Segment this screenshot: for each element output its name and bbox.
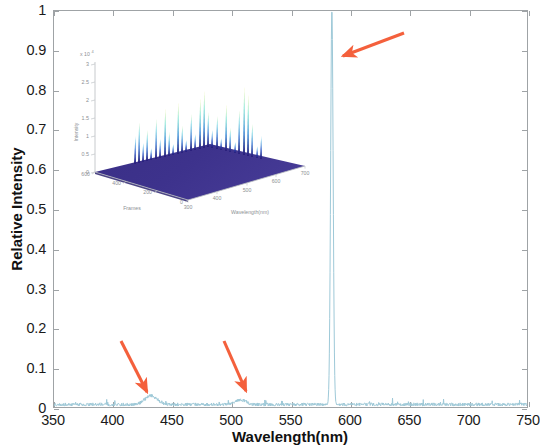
y-tick-label-0.4: 0.4 [0, 241, 46, 257]
x-tick-label-400: 400 [101, 412, 125, 428]
svg-text:400: 400 [213, 195, 222, 201]
x-tick-label-550: 550 [279, 412, 303, 428]
y-tick-label-0.5: 0.5 [0, 201, 46, 217]
y-tick-label-0: 0 [0, 400, 46, 416]
y-tick-label-0.8: 0.8 [0, 82, 46, 98]
x-tick-label-650: 650 [397, 412, 421, 428]
inset-z-exponent: x 10 4 [80, 49, 95, 57]
svg-text:1: 1 [86, 133, 89, 139]
y-tick-label-0.7: 0.7 [0, 121, 46, 137]
svg-text:600: 600 [272, 178, 281, 184]
y-tick-0 [522, 409, 527, 410]
x-tick-label-600: 600 [338, 412, 362, 428]
y-tick-label-0.6: 0.6 [0, 161, 46, 177]
inset-3d-surface-plot: 0 0.5 1 1.5 2 2.5 3 x 10 4 Intensity [60, 44, 310, 222]
svg-text:4: 4 [92, 49, 95, 54]
svg-text:3: 3 [86, 61, 89, 67]
x-tick-label-700: 700 [457, 412, 481, 428]
x-tick-label-750: 750 [516, 412, 540, 428]
x-tick-label-500: 500 [219, 412, 243, 428]
svg-text:x 10: x 10 [80, 51, 90, 57]
inset-z-tick-labels: 0 0.5 1 1.5 2 2.5 3 [82, 61, 90, 175]
svg-text:700: 700 [301, 170, 310, 176]
svg-text:500: 500 [243, 187, 252, 193]
x-axis-title: Wavelength(nm) [232, 428, 348, 445]
svg-text:300: 300 [184, 204, 193, 210]
y-tick-label-0.3: 0.3 [0, 281, 46, 297]
x-tick-750 [529, 11, 530, 16]
y-tick-label-0.1: 0.1 [0, 360, 46, 376]
x-tick-750 [529, 402, 530, 407]
inset-wavelength-axis-title: Wavelength(nm) [231, 209, 269, 215]
x-tick-label-450: 450 [160, 412, 184, 428]
inset-z-axis-title: Intensity [73, 122, 79, 141]
y-tick-label-0.2: 0.2 [0, 320, 46, 336]
y-tick-label-0.9: 0.9 [0, 42, 46, 58]
y-tick-0 [54, 409, 59, 410]
inset-surface-deck [95, 144, 305, 200]
svg-text:1.5: 1.5 [82, 115, 90, 121]
svg-text:2.5: 2.5 [82, 79, 90, 85]
inset-frames-axis-title: Frames [123, 205, 141, 211]
y-tick-label-1: 1 [0, 2, 46, 18]
svg-text:600: 600 [81, 171, 90, 177]
svg-text:2: 2 [86, 97, 89, 103]
svg-text:200: 200 [143, 189, 152, 195]
svg-text:0: 0 [180, 199, 183, 205]
inset-z-tick-marks [91, 64, 95, 173]
svg-text:0.5: 0.5 [82, 151, 90, 157]
svg-text:400: 400 [112, 180, 121, 186]
